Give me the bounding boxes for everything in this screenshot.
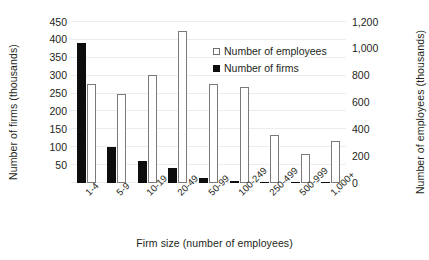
bar-number-of-firms: [199, 178, 208, 183]
y-axis-right-tick-label: 200: [352, 151, 370, 162]
y-axis-left-tick-label: 100: [49, 142, 67, 153]
bar-number-of-firms: [168, 168, 177, 183]
y-axis-left-ticks: 50100150200250300350400450: [34, 22, 67, 183]
bar-number-of-employees: [117, 94, 126, 183]
bar-group: [71, 22, 102, 183]
legend-item-firms: Number of firms: [213, 62, 327, 74]
x-axis-title: Firm size (number of employees): [0, 237, 429, 249]
bar-number-of-employees: [148, 75, 157, 183]
bar-number-of-firms: [77, 43, 86, 183]
bar-group: [132, 22, 163, 183]
bar-number-of-employees: [331, 141, 340, 183]
bar-chart: Number of firms (thousands) Number of em…: [0, 0, 429, 260]
bar-number-of-firms: [230, 181, 239, 183]
y-axis-right-tick-label: 1,000: [352, 43, 378, 54]
bar-group: [163, 22, 194, 183]
y-axis-right-tick-label: 600: [352, 97, 370, 108]
y-axis-left-tick-label: 150: [49, 124, 67, 135]
y-axis-right-tick-label: 400: [352, 124, 370, 135]
bar-number-of-firms: [291, 182, 300, 183]
x-axis-tick-labels: 1-45-910-1920-4950-99100-249250-499500-9…: [71, 186, 346, 232]
y-axis-left-tick-label: 300: [49, 70, 67, 81]
bar-number-of-employees: [178, 31, 187, 183]
legend-swatch-employees-icon: [213, 48, 220, 55]
bar-number-of-employees: [240, 87, 249, 183]
bar-number-of-employees: [270, 135, 279, 183]
legend-item-employees: Number of employees: [213, 45, 327, 57]
y-axis-left-tick-label: 400: [49, 34, 67, 45]
bar-number-of-employees: [209, 84, 218, 183]
bar-number-of-firms: [260, 182, 269, 183]
y-axis-left-tick-label: 50: [55, 160, 67, 171]
bar-number-of-firms: [138, 161, 147, 183]
y-axis-right-title: Number of employees (thousands): [414, 22, 426, 202]
legend: Number of employees Number of firms: [213, 45, 327, 74]
y-axis-left-title: Number of firms (thousands): [7, 32, 19, 192]
bar-number-of-employees: [87, 84, 96, 183]
y-axis-right-tick-label: 800: [352, 70, 370, 81]
bar-group: [102, 22, 133, 183]
legend-label-firms: Number of firms: [224, 62, 299, 74]
y-axis-left-tick-label: 450: [49, 17, 67, 28]
y-axis-right-ticks: 02004006008001,0001,200: [352, 22, 392, 183]
bar-number-of-firms: [321, 182, 330, 183]
y-axis-left-tick-label: 200: [49, 106, 67, 117]
y-axis-left-tick-label: 350: [49, 52, 67, 63]
legend-label-employees: Number of employees: [224, 45, 327, 57]
bar-number-of-firms: [107, 147, 116, 183]
legend-swatch-firms-icon: [213, 65, 220, 72]
y-axis-left-tick-label: 250: [49, 88, 67, 99]
y-axis-right-tick-label: 1,200: [352, 17, 378, 28]
